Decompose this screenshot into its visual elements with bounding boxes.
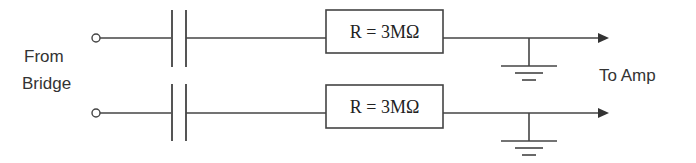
output-arrow-icon: [598, 33, 609, 43]
resistor-label: R = 3MΩ: [350, 97, 420, 117]
output-arrow-icon: [598, 108, 609, 118]
channel-top: R = 3MΩ: [92, 10, 609, 80]
input-label-from: From: [24, 47, 64, 66]
channel-bottom: R = 3MΩ: [92, 84, 609, 155]
output-label: To Amp: [599, 66, 656, 85]
input-terminal-icon: [92, 109, 100, 117]
ground-icon: [501, 113, 557, 155]
input-terminal-icon: [92, 34, 100, 42]
circuit-diagram: From Bridge R = 3MΩ: [0, 0, 696, 163]
ground-icon: [501, 38, 557, 80]
input-label-bridge: Bridge: [22, 74, 71, 93]
capacitor-icon: [172, 84, 186, 141]
capacitor-icon: [172, 10, 186, 67]
resistor-label: R = 3MΩ: [350, 22, 420, 42]
